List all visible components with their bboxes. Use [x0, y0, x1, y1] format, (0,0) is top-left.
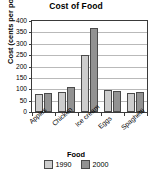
legend-label-1990: 1990 — [56, 160, 72, 169]
y-axis-tick-label: 300 — [16, 40, 27, 47]
y-axis-tick-labels: 050100150200250300350400 — [0, 20, 31, 113]
y-axis-tick-label: 250 — [16, 52, 27, 59]
y-axis-tick-label: 350 — [16, 29, 27, 36]
legend-entry-2000: 2000 — [81, 160, 109, 169]
legend-entry-1990: 1990 — [44, 160, 72, 169]
y-axis-tick-label: 150 — [16, 75, 27, 82]
chart-legend: 19902000 — [0, 160, 152, 169]
y-axis-tick-mark — [29, 21, 32, 22]
bar-eggs-1990 — [104, 90, 112, 112]
x-axis-title: Food — [0, 150, 152, 159]
bar-group — [78, 21, 101, 112]
bar-ice-cream-2000 — [90, 28, 98, 112]
y-axis-tick-mark — [29, 89, 32, 90]
bar-group — [101, 21, 124, 112]
bar-ice-cream-1990 — [81, 55, 89, 112]
x-axis-category-label: Eggs — [97, 114, 113, 130]
bar-spaghetti-1990 — [127, 93, 135, 112]
y-axis-tick-label: 50 — [20, 97, 27, 104]
y-axis-tick-label: 200 — [16, 63, 27, 70]
bar-eggs-2000 — [113, 91, 121, 112]
bar-group — [124, 21, 147, 112]
bars-layer — [32, 21, 147, 112]
legend-swatch-1990 — [44, 160, 53, 169]
legend-label-2000: 2000 — [93, 160, 109, 169]
y-axis-tick-label: 100 — [16, 86, 27, 93]
y-axis-tick-mark — [29, 101, 32, 102]
chart-title: Cost of Food — [0, 1, 152, 11]
legend-swatch-2000 — [81, 160, 90, 169]
bar-group — [32, 21, 55, 112]
bar-chart-figure: Cost of Food Cost (cents per pound) 0501… — [0, 0, 152, 174]
y-axis-tick-mark — [29, 32, 32, 33]
y-axis-tick-mark — [29, 67, 32, 68]
y-axis-tick-mark — [29, 78, 32, 79]
x-axis-category-labels: ApplesChickenIce creamEggsSpaghetti — [0, 113, 152, 149]
y-axis-tick-mark — [29, 55, 32, 56]
y-axis-tick-label: 400 — [16, 18, 27, 25]
y-axis-tick-mark — [29, 44, 32, 45]
bar-group — [55, 21, 78, 112]
